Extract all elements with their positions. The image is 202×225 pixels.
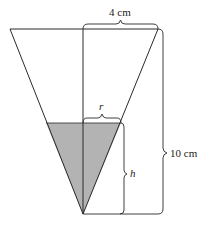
cone-drawing bbox=[0, 0, 202, 225]
cone-diagram: 4 cm 10 cm r h bbox=[0, 0, 202, 225]
water-radius-brace bbox=[83, 114, 121, 123]
water-radius-label: r bbox=[99, 101, 103, 112]
height-brace bbox=[83, 29, 167, 214]
water-height-label: h bbox=[130, 168, 136, 179]
top-radius-brace bbox=[83, 20, 158, 29]
top-radius-label: 4 cm bbox=[109, 7, 131, 18]
water-height-brace bbox=[120, 123, 127, 214]
height-label: 10 cm bbox=[170, 148, 197, 159]
